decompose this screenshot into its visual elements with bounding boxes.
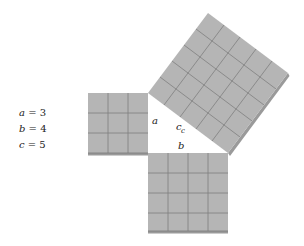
triangle-labels: a c c b xyxy=(152,115,185,151)
square-a xyxy=(88,93,148,156)
label-b: b xyxy=(178,140,184,151)
square-c xyxy=(148,13,290,156)
label-c-subscript: c xyxy=(181,127,185,135)
pythagorean-diagram: a c c b xyxy=(0,0,304,246)
square-b xyxy=(148,153,228,234)
label-a: a xyxy=(152,115,158,126)
